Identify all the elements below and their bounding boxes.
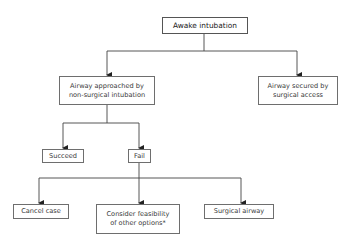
node-label: Airway secured by surgical access xyxy=(268,82,329,100)
node-label: Airway approached by non-surgical intuba… xyxy=(69,82,145,100)
node-succeed: Succeed xyxy=(42,149,84,163)
node-non-surgical-intubation: Airway approached by non-surgical intuba… xyxy=(59,76,155,105)
node-label: Awake intubation xyxy=(173,21,237,30)
node-fail: Fail xyxy=(128,149,151,163)
node-label: Consider feasibility of other options* xyxy=(107,210,170,228)
node-consider-other-options: Consider feasibility of other options* xyxy=(96,204,180,234)
node-awake-intubation: Awake intubation xyxy=(162,17,248,34)
node-label: Cancel case xyxy=(21,207,61,216)
node-label: Surgical airway xyxy=(214,207,265,216)
node-surgical-access: Airway secured by surgical access xyxy=(258,76,338,105)
node-surgical-airway: Surgical airway xyxy=(204,204,274,219)
node-label: Fail xyxy=(134,152,145,161)
node-cancel-case: Cancel case xyxy=(13,204,69,219)
node-label: Succeed xyxy=(49,152,77,161)
